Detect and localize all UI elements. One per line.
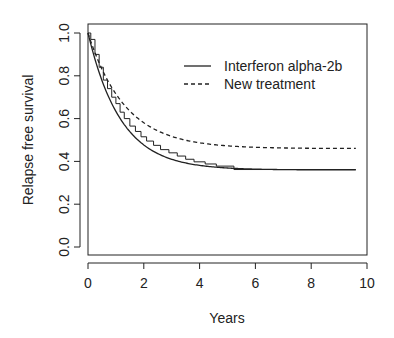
x-axis: 0246810 <box>84 263 375 291</box>
legend-label-interferon: Interferon alpha-2b <box>224 58 343 74</box>
y-tick-label: 0.0 <box>56 237 72 257</box>
x-axis-title: Years <box>209 310 244 326</box>
x-tick-label: 8 <box>307 275 315 291</box>
x-tick-label: 0 <box>84 275 92 291</box>
x-tick-label: 10 <box>359 275 375 291</box>
x-tick-label: 6 <box>252 275 260 291</box>
chart: 0.00.20.40.60.81.0 0246810 Interferon al… <box>0 0 394 338</box>
series-group <box>88 33 356 170</box>
y-tick-label: 1.0 <box>56 23 72 43</box>
interferon-curve <box>88 33 356 170</box>
new-treatment-curve <box>88 33 356 148</box>
y-axis: 0.00.20.40.60.81.0 <box>56 23 80 257</box>
y-tick-label: 0.2 <box>56 194 72 214</box>
y-tick-label: 0.8 <box>56 66 72 86</box>
legend-label-new-treatment: New treatment <box>224 76 315 92</box>
y-tick-label: 0.6 <box>56 109 72 129</box>
x-tick-label: 4 <box>196 275 204 291</box>
kaplan-meier-step-curve <box>88 33 356 170</box>
y-tick-label: 0.4 <box>56 151 72 171</box>
x-tick-label: 2 <box>140 275 148 291</box>
legend: Interferon alpha-2b New treatment <box>184 58 343 92</box>
y-axis-title: Relapse free survival <box>20 75 36 206</box>
